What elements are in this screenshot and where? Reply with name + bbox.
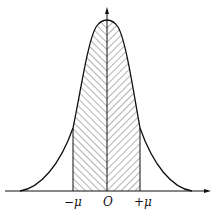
y-axis-arrow-icon	[105, 7, 109, 14]
plus-mu-label: +μ	[134, 196, 152, 208]
x-axis-arrow-icon	[204, 189, 211, 193]
origin-label: O	[103, 196, 113, 208]
normal-distribution-diagram	[0, 0, 223, 212]
minus-mu-label: −μ	[64, 196, 82, 208]
